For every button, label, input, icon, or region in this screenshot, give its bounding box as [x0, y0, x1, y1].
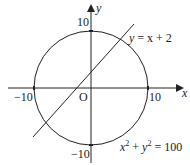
coordinate-diagram: y x O 10 −10 −10 10 y = x + 2 x2 + y2 = …	[0, 0, 190, 165]
origin-label: O	[79, 90, 88, 104]
tick-y-pos	[89, 30, 93, 32]
circle-equation-label: x2 + y2 = 100	[119, 139, 182, 154]
tick-label-x-neg: −10	[14, 90, 33, 104]
y-axis-label: y	[95, 1, 102, 15]
tick-label-y-pos: 10	[77, 15, 89, 29]
x-axis-label: x	[181, 86, 188, 100]
tick-y-neg	[89, 144, 93, 146]
tick-label-y-neg: −10	[71, 147, 90, 161]
tick-label-x-pos: 10	[149, 90, 161, 104]
line-y-equals-x-plus-2	[33, 24, 134, 137]
line-equation-label: y = x + 2	[128, 31, 172, 45]
tick-x-neg	[33, 86, 35, 90]
